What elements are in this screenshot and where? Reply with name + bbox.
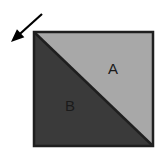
region-b-label: B xyxy=(65,97,75,114)
figure-container: A B xyxy=(0,0,162,154)
region-a-label: A xyxy=(108,60,118,77)
geometry-figure: A B xyxy=(0,0,162,154)
